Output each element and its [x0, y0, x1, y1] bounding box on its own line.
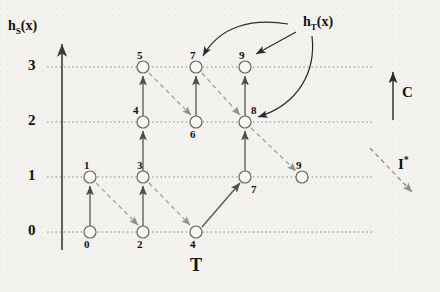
- annotation-arrows: [203, 22, 313, 117]
- y-tick-2: 2: [28, 112, 36, 129]
- node-label-1: 1: [84, 159, 90, 171]
- node-label-9b: 9: [296, 159, 302, 171]
- node-label-9: 9: [239, 49, 245, 61]
- figure-canvas: hS(x) 3 2 1 0 0 1 2 3 4 5 4 6 7 7 8 9 9 …: [0, 0, 440, 292]
- node-9b: [296, 171, 308, 183]
- node-label-6: 6: [190, 128, 196, 140]
- gridlines: [47, 67, 372, 232]
- node-label-4b: 4: [190, 238, 196, 250]
- annotation-arrow-to-node-7: [203, 22, 288, 56]
- node-label-0: 0: [84, 238, 90, 250]
- node-label-5: 5: [137, 49, 143, 61]
- dashed-edge-5-6: [149, 73, 191, 115]
- node-9: [239, 61, 251, 73]
- y-tick-3: 3: [28, 57, 36, 74]
- annotation-label-ht: hT(x): [303, 14, 333, 32]
- node-6: [190, 116, 202, 128]
- node-8: [239, 116, 251, 128]
- node-3: [137, 171, 149, 183]
- y-tick-1: 1: [28, 167, 36, 184]
- node-4: [137, 116, 149, 128]
- node-2: [137, 226, 149, 238]
- node-7b: [239, 171, 251, 183]
- node-7: [190, 61, 202, 73]
- node-label-7: 7: [190, 49, 196, 61]
- x-axis-label: T: [190, 255, 202, 276]
- node-5: [137, 61, 149, 73]
- dashed-edge-1-2: [96, 183, 138, 225]
- node-0: [84, 226, 96, 238]
- annotation-arrow-to-node-9: [256, 32, 296, 54]
- legend-label-c: C: [402, 84, 413, 101]
- y-tick-0: 0: [28, 222, 36, 239]
- node-label-3: 3: [137, 159, 143, 171]
- solid-edges: [90, 76, 245, 227]
- node-label-2: 2: [137, 238, 143, 250]
- node-1: [84, 171, 96, 183]
- diagram-svg: [0, 0, 440, 292]
- dashed-edge-8-9b: [251, 128, 296, 171]
- y-axis-label: hS(x): [8, 18, 37, 36]
- node-label-4: 4: [133, 104, 139, 116]
- node-label-7b: 7: [251, 183, 257, 195]
- solid-edge-4b-7b: [202, 183, 240, 227]
- dashed-edge-3-4b: [149, 183, 190, 225]
- node-label-8: 8: [251, 104, 257, 116]
- dashed-edge-7-8: [202, 73, 240, 115]
- node-4b: [190, 226, 202, 238]
- legend-label-i: I*: [398, 154, 409, 173]
